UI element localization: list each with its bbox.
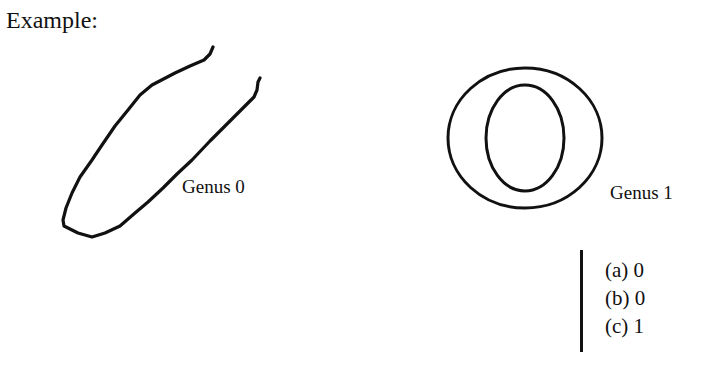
genus-0-label: Genus 0 bbox=[182, 176, 245, 198]
answer-c: (c) 1 bbox=[605, 312, 645, 340]
genus-0-open-curve bbox=[63, 47, 260, 237]
answer-list: (a) 0 (b) 0 (c) 1 bbox=[605, 256, 645, 340]
answer-divider-bar bbox=[580, 250, 583, 352]
genus-1-inner-ellipse bbox=[486, 85, 564, 191]
genus-1-outer-ellipse bbox=[448, 68, 602, 208]
answer-b: (b) 0 bbox=[605, 284, 645, 312]
answer-a: (a) 0 bbox=[605, 256, 645, 284]
genus-1-label: Genus 1 bbox=[610, 182, 673, 204]
